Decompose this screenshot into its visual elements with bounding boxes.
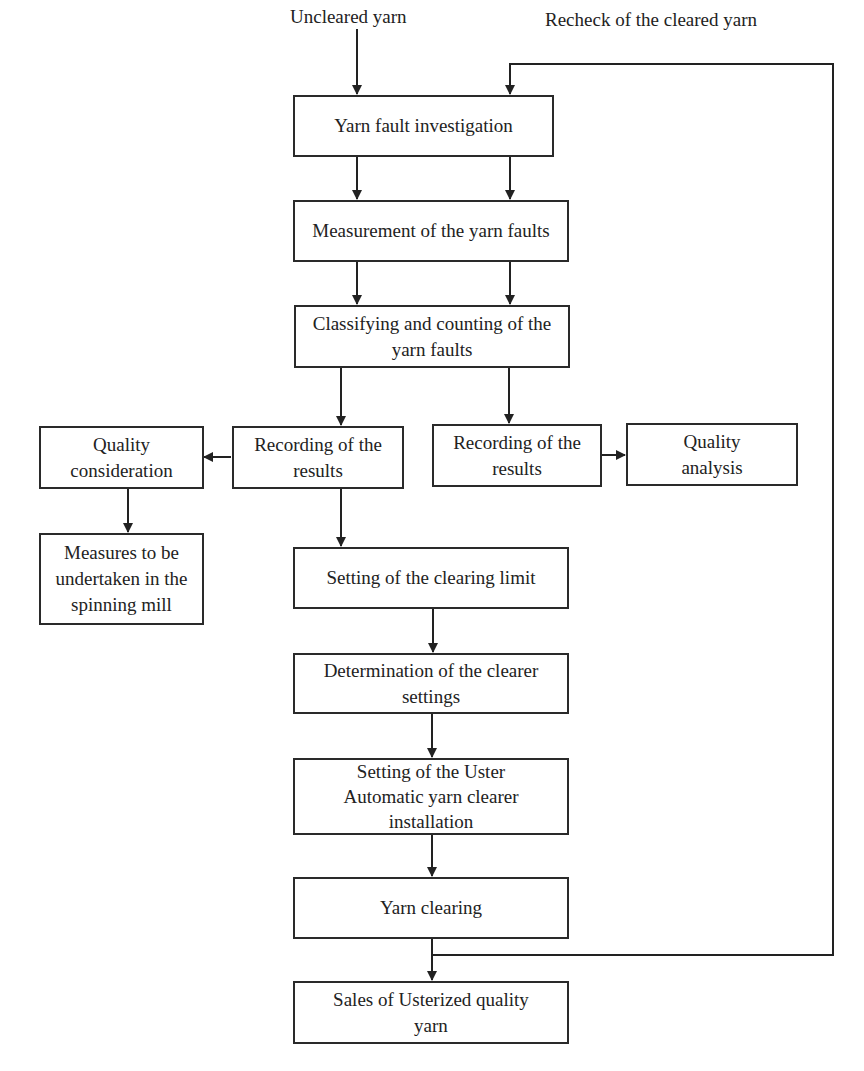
node-sales-usterized-yarn: Sales of Usterized quality yarn: [293, 981, 569, 1044]
node-clearing-limit: Setting of the clearing limit: [293, 547, 569, 609]
input-label-uncleared-yarn: Uncleared yarn: [290, 6, 407, 28]
node-label: Determination of the clearer settings: [300, 658, 562, 710]
node-measurement: Measurement of the yarn faults: [293, 200, 569, 262]
node-clearer-settings: Determination of the clearer settings: [293, 653, 569, 714]
node-label: Recording of the results: [243, 432, 393, 484]
node-measures-spinning-mill: Measures to be undertaken in the spinnin…: [39, 533, 204, 625]
node-label: Measurement of the yarn faults: [312, 218, 549, 244]
input-label-recheck: Recheck of the cleared yarn: [545, 9, 757, 31]
node-label: Yarn clearing: [380, 895, 482, 921]
node-yarn-fault-investigation: Yarn fault investigation: [293, 95, 554, 157]
node-label: Setting of the clearing limit: [327, 565, 536, 591]
node-label: Sales of Usterized quality yarn: [316, 987, 546, 1039]
node-label: Quality consideration: [67, 432, 177, 484]
node-recording-results-right: Recording of the results: [432, 424, 602, 487]
node-label: Yarn fault investigation: [334, 113, 513, 139]
node-label: Recording of the results: [442, 430, 592, 482]
node-label: Classifying and counting of the yarn fau…: [300, 311, 564, 363]
node-uster-setting: Setting of the Uster Automatic yarn clea…: [293, 758, 569, 835]
node-quality-consideration: Quality consideration: [39, 426, 204, 489]
node-label: Setting of the Uster Automatic yarn clea…: [331, 759, 531, 834]
node-yarn-clearing: Yarn clearing: [293, 877, 569, 939]
node-quality-analysis: Quality analysis: [626, 423, 798, 486]
node-label: Measures to be undertaken in the spinnin…: [45, 540, 198, 618]
node-recording-results-left: Recording of the results: [232, 426, 404, 489]
node-label: Quality analysis: [672, 429, 752, 481]
node-classifying-counting: Classifying and counting of the yarn fau…: [294, 305, 570, 368]
